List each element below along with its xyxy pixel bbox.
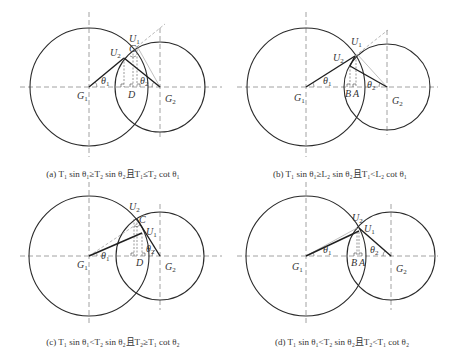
label-u1: U1 <box>351 36 362 49</box>
caption-b: (b) T₁ sin θ₁≥L₂ sin θ₂且T₁<L₂ cot θ₁ <box>273 169 407 179</box>
label-u2: U2 <box>110 47 121 60</box>
panel-c: U2 C U1 θ1 θ2 G1 D G2 (c) T₁ sin θ₁<T₂ s… <box>20 182 222 347</box>
caption-a: (a) T₁ sin θ₁≥T₂ sin θ₂且T₁≤T₂ cot θ₁ <box>46 169 179 179</box>
label-g1: G1 <box>292 261 303 274</box>
label-d: D <box>127 89 136 100</box>
right-angle-mark <box>131 253 134 256</box>
label-a: A <box>358 257 366 268</box>
figure: U1 U2 C θ1 θ2 G1 D G2 (a) T₁ sin θ₁≥T₂ s… <box>0 0 454 361</box>
label-u2: U2 <box>129 201 140 214</box>
label-c: C <box>129 43 136 54</box>
right-angle-mark <box>130 84 133 87</box>
label-theta2: θ2 <box>370 244 379 257</box>
label-d: D <box>135 257 144 268</box>
right-angle-mark <box>121 84 124 87</box>
theta1-arc <box>313 83 314 87</box>
panel-d: U2 U1 θ1 θ2 G1 B A G2 (d) T₁ sin θ₁<T₂ s… <box>237 182 438 347</box>
extension-line <box>89 224 137 256</box>
label-u2: U2 <box>352 212 363 225</box>
c-angle-arc <box>130 56 136 57</box>
label-c: C <box>139 214 146 225</box>
label-b: B <box>345 88 351 99</box>
label-g2: G2 <box>396 263 407 276</box>
arm-g1-u1 <box>306 231 359 256</box>
right-angle-mark <box>359 253 362 256</box>
right-angle-mark <box>142 253 145 256</box>
label-g1: G1 <box>77 90 88 103</box>
label-u2: U2 <box>333 52 344 65</box>
label-theta1: θ1 <box>101 75 110 88</box>
theta2-arc <box>383 251 385 256</box>
label-theta1: θ1 <box>101 250 110 263</box>
theta1-arc <box>313 253 314 256</box>
right-angle-mark <box>347 84 350 87</box>
label-theta1: θ1 <box>323 244 332 257</box>
panel-a: U1 U2 C θ1 θ2 G1 D G2 (a) T₁ sin θ₁≥T₂ s… <box>20 12 222 179</box>
label-g2: G2 <box>165 261 176 274</box>
theta1-arc <box>95 82 97 87</box>
panel-b: U1 U2 θ1 θ2 G1 B A G2 (b) T₁ sin θ₁≥L₂ s… <box>237 12 438 179</box>
label-g1: G1 <box>77 259 88 272</box>
caption-d: (d) T₁ sin θ₁<T₂ sin θ₂且T₂<T₁ cot θ₂ <box>275 337 409 347</box>
theta2-arc <box>152 82 154 87</box>
label-theta1: θ1 <box>323 75 332 88</box>
right-angle-mark <box>354 253 357 256</box>
right-angle-mark <box>353 84 356 87</box>
tangent-line <box>357 54 387 87</box>
label-b: B <box>351 257 357 268</box>
label-g2: G2 <box>165 93 176 106</box>
label-g1: G1 <box>294 92 305 105</box>
label-g2: G2 <box>392 95 403 108</box>
label-theta2: θ2 <box>367 79 376 92</box>
caption-c: (c) T₁ sin θ₁<T₂ sin θ₂且T₂≥T₁ cot θ₂ <box>46 337 179 347</box>
label-a: A <box>352 88 360 99</box>
theta2-arc <box>379 83 380 87</box>
